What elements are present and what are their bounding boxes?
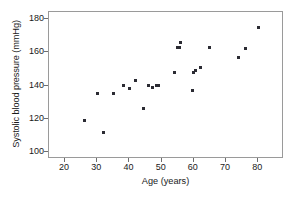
x-axis-tick-mark (257, 158, 258, 162)
y-axis-tick-label: 180 (0, 12, 44, 24)
data-point (128, 87, 131, 90)
data-point (208, 46, 211, 49)
x-axis-title: Age (years) (48, 176, 283, 186)
y-axis-tick-label: 140 (0, 79, 44, 91)
data-point (194, 69, 197, 72)
x-axis-tick-mark (193, 158, 194, 162)
x-axis-tick-mark (225, 158, 226, 162)
data-point (112, 92, 115, 95)
y-axis-tick-mark (44, 51, 48, 52)
data-point (257, 26, 260, 29)
scatter-plot-figure: Systolic blood pressure (mmHg) 100120140… (0, 0, 297, 198)
data-point (142, 107, 145, 110)
data-point (96, 92, 99, 95)
x-axis-tick-label: 80 (243, 161, 271, 173)
data-point (134, 79, 137, 82)
plot-area (48, 11, 283, 158)
data-point (191, 89, 194, 92)
x-axis-tick-mark (161, 158, 162, 162)
x-axis-tick-label: 50 (147, 161, 175, 173)
y-axis-tick-label: 120 (0, 112, 44, 124)
data-point (178, 46, 181, 49)
y-axis-tick-mark (44, 18, 48, 19)
data-point (244, 47, 247, 50)
x-axis-tick-mark (128, 158, 129, 162)
y-axis-tick-label: 160 (0, 45, 44, 57)
data-point (122, 84, 125, 87)
y-axis-tick-mark (44, 151, 48, 152)
data-point (157, 84, 160, 87)
data-point (199, 66, 202, 69)
data-point (83, 119, 86, 122)
data-point (237, 56, 240, 59)
x-axis-tick-label: 40 (114, 161, 142, 173)
x-axis-tick-mark (96, 158, 97, 162)
y-axis-tick-label: 100 (0, 145, 44, 157)
x-axis-tick-label: 20 (50, 161, 78, 173)
x-axis-tick-label: 70 (211, 161, 239, 173)
data-point (173, 71, 176, 74)
y-axis-tick-mark (44, 85, 48, 86)
y-axis-tick-mark (44, 118, 48, 119)
x-axis-tick-mark (64, 158, 65, 162)
data-point (151, 86, 154, 89)
x-axis-tick-label: 60 (179, 161, 207, 173)
data-point (102, 131, 105, 134)
data-point (179, 41, 182, 44)
x-axis-tick-label: 30 (82, 161, 110, 173)
